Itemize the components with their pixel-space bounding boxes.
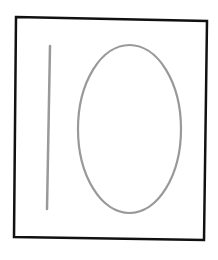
ellipse-zero xyxy=(78,45,181,213)
vertical-line-one xyxy=(47,46,50,209)
figure-canvas xyxy=(0,0,218,260)
